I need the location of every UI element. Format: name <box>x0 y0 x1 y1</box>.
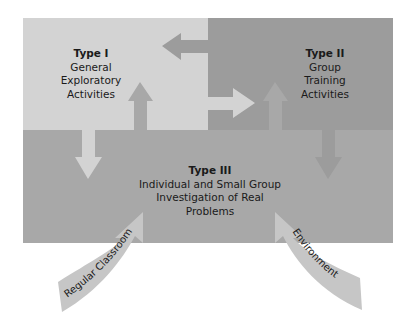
type2-line: Activities <box>275 88 375 102</box>
type1-line: Activities <box>41 88 141 102</box>
type1-label: Type I General Exploratory Activities <box>41 47 141 101</box>
type3-title: Type III <box>130 164 290 178</box>
type2-line: Training <box>275 74 375 88</box>
type3-line: Problems <box>130 205 290 219</box>
type3-line: Investigation of Real <box>130 191 290 205</box>
type1-title: Type I <box>41 47 141 61</box>
type2-line: Group <box>275 61 375 75</box>
type2-label: Type II Group Training Activities <box>275 47 375 101</box>
type1-line: Exploratory <box>41 74 141 88</box>
type1-line: General <box>41 61 141 75</box>
type2-title: Type II <box>275 47 375 61</box>
type3-line: Individual and Small Group <box>130 178 290 192</box>
type3-label: Type III Individual and Small Group Inve… <box>130 164 290 218</box>
